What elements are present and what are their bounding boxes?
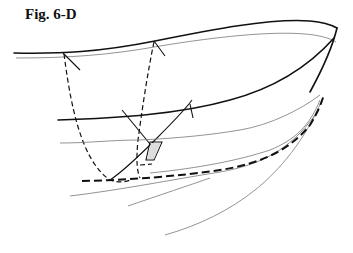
hull-diagram [0,0,353,253]
frame-tick-1 [63,53,80,70]
bow-stem-line [310,28,337,92]
sheer-line [14,21,337,54]
rib-detail-dash [140,164,152,165]
waterline-4 [128,178,210,206]
frame-tick-2 [154,41,165,56]
waterline-5 [165,100,322,235]
frame-tick-4 [190,104,193,118]
